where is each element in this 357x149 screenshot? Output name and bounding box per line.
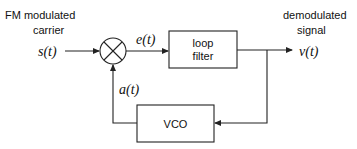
multiplier-node — [100, 38, 126, 64]
error-signal-label: e(t) — [136, 32, 156, 48]
feedback-signal-label: a(t) — [119, 82, 140, 98]
input-label-line2: carrier — [33, 24, 65, 36]
output-label-line2: signal — [297, 24, 326, 36]
loop-filter-label-line1: loop — [193, 37, 214, 49]
output-label-line1: demodulated — [283, 9, 347, 21]
pll-block-diagram: FM modulated carrier s(t) e(t) loop filt… — [0, 0, 357, 149]
input-label-line1: FM modulated — [5, 9, 75, 21]
vco-label: VCO — [164, 118, 188, 130]
output-signal-label: v(t) — [299, 44, 319, 60]
input-signal-label: s(t) — [38, 44, 57, 60]
loop-filter-label-line2: filter — [193, 50, 214, 62]
